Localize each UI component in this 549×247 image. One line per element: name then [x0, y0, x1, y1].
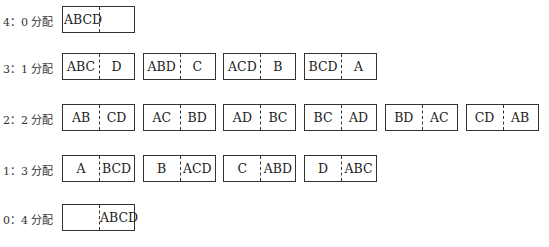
left-group: AC [144, 105, 180, 130]
left-group: ABC [63, 54, 99, 79]
left-group: AD [224, 105, 260, 130]
right-group: BD [180, 105, 215, 130]
left-group: D [305, 156, 341, 181]
right-group: ABC [341, 156, 376, 181]
right-group: BC [260, 105, 295, 130]
allocation-row: 4：0 分配ABCD [0, 6, 549, 34]
left-group: ABD [144, 54, 180, 79]
allocation-box: ABCD [62, 6, 135, 33]
row-label: 4：0 分配 [3, 13, 54, 29]
allocation-row: 3：1 分配ABCDABDCACDBBCDA [0, 53, 549, 81]
row-label: 0：4 分配 [3, 211, 54, 227]
allocation-box: ABCD [62, 204, 135, 231]
right-group: AC [422, 105, 457, 130]
allocation-row: 2：2 分配ABCDACBDADBCBCADBDACCDAB [0, 104, 549, 132]
allocation-box: BDAC [385, 104, 458, 131]
row-label: 2：2 分配 [3, 111, 54, 127]
allocation-box: ABCD [62, 155, 135, 182]
left-group: B [144, 156, 180, 181]
left-group: BCD [305, 54, 341, 79]
right-group: C [180, 54, 215, 79]
allocation-box: ADBC [223, 104, 296, 131]
allocation-box: BCAD [304, 104, 377, 131]
left-group: ABCD [63, 7, 100, 32]
left-group [63, 205, 99, 230]
right-group: BCD [99, 156, 134, 181]
left-group: BC [305, 105, 341, 130]
allocation-box: CDAB [466, 104, 539, 131]
right-group [99, 7, 134, 32]
right-group: CD [99, 105, 134, 130]
left-group: ACD [224, 54, 260, 79]
right-group: AD [341, 105, 376, 130]
allocation-box: ACDB [223, 53, 296, 80]
right-group: B [260, 54, 295, 79]
allocation-box: CABD [223, 155, 296, 182]
allocation-box: ACBD [143, 104, 216, 131]
allocation-box: ABCD [62, 104, 135, 131]
allocation-box: ABCD [62, 53, 135, 80]
allocation-box: BCDA [304, 53, 377, 80]
right-group: AB [503, 105, 538, 130]
allocation-box: DABC [304, 155, 377, 182]
allocation-row: 0：4 分配ABCD [0, 204, 549, 232]
right-group: A [341, 54, 376, 79]
row-label: 3：1 分配 [3, 60, 54, 76]
allocation-box: BACD [143, 155, 216, 182]
row-label: 1：3 分配 [3, 162, 54, 178]
right-group: ACD [180, 156, 215, 181]
right-group: ABD [260, 156, 295, 181]
right-group: D [99, 54, 134, 79]
allocation-box: ABDC [143, 53, 216, 80]
left-group: BD [386, 105, 422, 130]
left-group: AB [63, 105, 99, 130]
left-group: A [63, 156, 99, 181]
right-group: ABCD [99, 205, 135, 230]
allocation-row: 1：3 分配ABCDBACDCABDDABC [0, 155, 549, 183]
left-group: CD [467, 105, 503, 130]
left-group: C [224, 156, 260, 181]
